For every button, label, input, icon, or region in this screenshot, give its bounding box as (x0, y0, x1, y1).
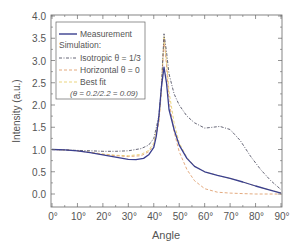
legend-label-measurement: Measurement (80, 29, 133, 39)
legend-label-simulation: Simulation: (59, 40, 101, 50)
chart: 0°10°20°30°40°50°60°70°80°90° 0.00.51.01… (0, 0, 299, 247)
y-tick-label: 3.0 (32, 56, 46, 67)
y-tick-label: 1.5 (32, 122, 46, 133)
y-axis-label: Intensity (a.u.) (11, 79, 22, 142)
x-tick-label: 30° (122, 211, 137, 222)
y-tick-label: 2.5 (32, 78, 46, 89)
y-tick-label: 2.0 (32, 100, 46, 111)
y-tick-label: 0.5 (32, 167, 46, 178)
x-tick-label: 20° (96, 211, 111, 222)
legend: Measurement Simulation: Isotropic θ = 1/… (56, 22, 145, 99)
legend-label-best-fit-param: (θ = 0.2/2.2 = 0.09) (70, 89, 138, 98)
legend-label-isotropic: Isotropic θ = 1/3 (80, 53, 141, 63)
x-tick-label: 10° (71, 211, 86, 222)
y-tick-label: 3.5 (32, 33, 46, 44)
x-tick-label: 80° (249, 211, 264, 222)
x-tick-label: 90° (274, 211, 289, 222)
y-tick-label: 1.0 (32, 145, 46, 156)
x-tick-label: 40° (147, 211, 162, 222)
x-tick-label: 60° (198, 211, 213, 222)
x-tick-label: 0° (48, 211, 58, 222)
x-tick-label: 50° (173, 211, 188, 222)
x-tick-label: 70° (224, 211, 239, 222)
y-tick-label: 0.0 (32, 189, 46, 200)
y-tick-label: 4.0 (32, 11, 46, 22)
legend-label-best-fit: Best fit (80, 77, 107, 87)
x-axis-label: Angle (152, 229, 180, 241)
legend-label-horizontal: Horizontal θ = 0 (80, 65, 140, 75)
